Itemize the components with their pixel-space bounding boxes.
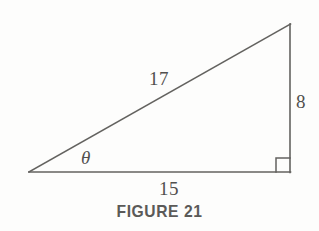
opposite-side-length-label: 8	[296, 92, 306, 111]
triangle-hypotenuse-line	[29, 24, 291, 172]
theta-angle-label: θ	[81, 148, 90, 167]
hypotenuse-length-label: 17	[149, 69, 169, 88]
right-angle-marker-icon	[276, 158, 290, 172]
adjacent-side-length-label: 15	[159, 179, 179, 198]
figure-caption: FIGURE 21	[13, 203, 306, 222]
figure-container: 17 8 15 θ FIGURE 21	[0, 0, 319, 231]
